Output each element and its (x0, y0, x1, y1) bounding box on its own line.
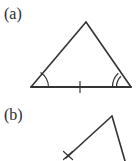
x-mark-icon (64, 152, 73, 160)
angle-arc-bottom-right-1 (116, 76, 121, 87)
triangle-a-left-side (31, 22, 86, 87)
triangle-a-right-side (86, 22, 131, 87)
triangle-b-right-side (112, 116, 125, 161)
panel-b-partial-triangle (64, 116, 126, 161)
panel-a-triangle (31, 22, 131, 93)
geometry-canvas (0, 0, 136, 161)
geometry-figure: (a) (b) (0, 0, 136, 161)
